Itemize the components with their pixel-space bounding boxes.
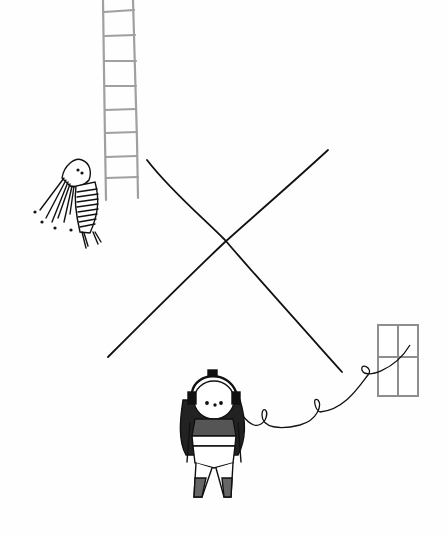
ladder-drawing (103, 0, 138, 200)
headphone-girl (180, 370, 244, 497)
cross-lines (108, 150, 342, 372)
illustration-svg (0, 0, 448, 535)
hanging-girl (34, 159, 101, 248)
illustration-canvas (0, 0, 448, 535)
